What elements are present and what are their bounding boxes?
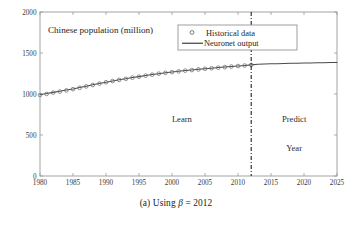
caption-beta-symbol: β: [178, 198, 183, 208]
x-tick-label: 1985: [66, 179, 81, 187]
y-tick-label: 1000: [22, 91, 37, 99]
x-tick-label: 2010: [231, 179, 246, 187]
figure-container: 0500100015002000 19801985199019952000200…: [0, 0, 352, 230]
x-tick-label: 1990: [99, 179, 114, 187]
x-tick-label: 1980: [33, 179, 48, 187]
x-tick-label: 1995: [132, 179, 147, 187]
annotation-predict: Predict: [282, 114, 307, 124]
chart-legend: Historical data Neuronet output: [178, 25, 297, 50]
y-tick-label: 2000: [22, 9, 37, 17]
annotation-learn: Learn: [172, 114, 193, 124]
x-tick-label: 2015: [264, 179, 279, 187]
caption-equals: =: [185, 198, 190, 208]
population-forecast-chart: 0500100015002000 19801985199019952000200…: [0, 0, 352, 230]
plot-title: Chinese population (million): [48, 25, 153, 35]
annotation-year: Year: [286, 143, 302, 153]
x-tick-label: 2020: [297, 179, 312, 187]
y-tick-label: 1500: [22, 50, 37, 58]
y-tick-label: 500: [26, 132, 37, 140]
x-tick-label: 2000: [165, 179, 180, 187]
legend-label-neuronet-output: Neuronet output: [204, 39, 259, 48]
series-markers-historical-data: [38, 63, 253, 97]
x-axis-tick-labels: 1980198519901995200020052010201520202025: [33, 179, 345, 187]
caption-prefix: (a) Using: [140, 198, 176, 208]
series-line-neuronet-output: [40, 62, 337, 94]
legend-label-historical-data: Historical data: [206, 29, 255, 38]
x-tick-label: 2005: [198, 179, 213, 187]
y-axis-tick-labels: 0500100015002000: [22, 9, 37, 181]
figure-caption: (a) Using β = 2012: [0, 198, 352, 208]
plot-annotations: LearnPredictYear: [172, 114, 307, 154]
x-tick-label: 2025: [330, 179, 345, 187]
caption-value: 2012: [193, 198, 212, 208]
